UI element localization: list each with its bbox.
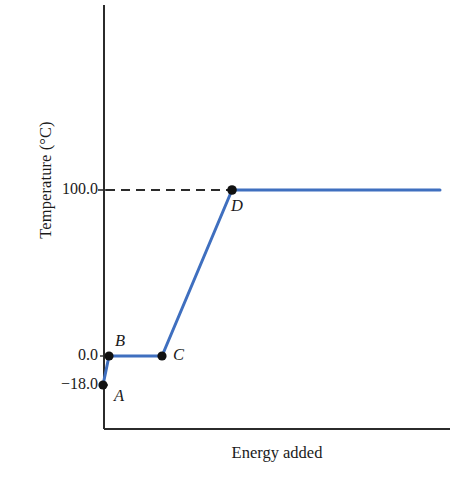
- y-tick-label-100: 100.0: [62, 181, 98, 197]
- y-tick-label-minus18: −18.0: [61, 376, 98, 392]
- data-point-b: [104, 351, 113, 360]
- data-point-d: [227, 185, 237, 195]
- x-axis-title: Energy added: [104, 443, 450, 463]
- phase-change-chart: Temperature (°C) Energy added 100.0 0.0 …: [0, 0, 455, 479]
- point-label-b: B: [115, 333, 125, 350]
- y-tick-label-0: 0.0: [78, 347, 98, 363]
- data-point-c: [157, 351, 166, 360]
- point-label-c: C: [173, 347, 184, 364]
- point-label-d: D: [231, 198, 243, 215]
- data-point-a: [98, 380, 107, 389]
- point-label-a: A: [114, 388, 124, 405]
- heating-curve: [103, 190, 440, 385]
